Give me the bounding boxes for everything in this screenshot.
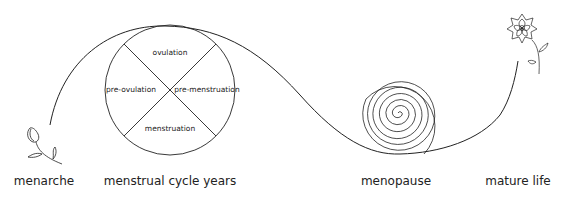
segment-label-ovulation: ovulation bbox=[153, 48, 188, 57]
life-stages-diagram bbox=[0, 0, 570, 199]
stage-label-menstrual-cycle-years: menstrual cycle years bbox=[104, 174, 237, 188]
segment-label-menstruation: menstruation bbox=[145, 124, 195, 133]
segment-label-pre-menstruation: pre-menstruation bbox=[174, 85, 239, 94]
flower-bud-icon bbox=[28, 128, 62, 164]
stage-label-mature-life: mature life bbox=[485, 174, 551, 188]
stage-label-menopause: menopause bbox=[361, 174, 431, 188]
segment-label-pre-ovulation: pre-ovulation bbox=[106, 85, 156, 94]
spiral-icon bbox=[363, 82, 435, 154]
blooming-flower-icon bbox=[507, 14, 548, 74]
stage-label-menarche: menarche bbox=[14, 174, 74, 188]
